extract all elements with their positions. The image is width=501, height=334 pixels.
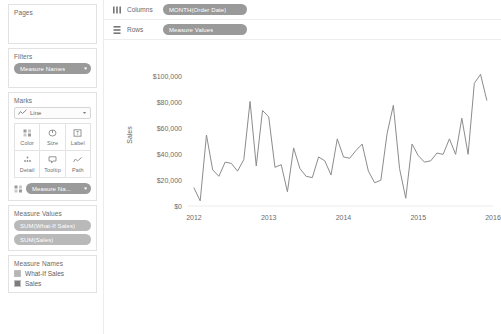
filters-card[interactable]: Filters Measure Names ▾ bbox=[8, 48, 97, 88]
rows-pill-label: Measure Values bbox=[169, 27, 213, 33]
chart-area[interactable]: $0$20,000$40,000$60,000$80,000$100,000Sa… bbox=[104, 40, 501, 334]
chevron-down-icon[interactable]: ▼ bbox=[82, 111, 87, 115]
columns-shelf[interactable]: Columns MONTH(Order Date) bbox=[104, 0, 501, 20]
x-axis-tick-label: 2016 bbox=[485, 214, 501, 221]
sort-icon[interactable]: ▾ bbox=[84, 66, 87, 72]
mark-type-label: Line bbox=[30, 110, 79, 116]
y-axis-tick-label: $0 bbox=[174, 203, 182, 210]
svg-text:T: T bbox=[76, 130, 79, 136]
pages-card[interactable]: Pages bbox=[8, 4, 97, 44]
marks-button-tooltip[interactable]: Tooltip bbox=[40, 151, 65, 178]
tooltip-icon bbox=[48, 156, 57, 165]
x-axis-tick-label: 2014 bbox=[336, 214, 352, 221]
marks-encoding-row: Measure Na... ▾ bbox=[14, 183, 91, 194]
measure-values-card: Measure Values SUM(What-If Sales) SUM(Sa… bbox=[8, 205, 97, 251]
marks-button-color[interactable]: Color bbox=[15, 124, 40, 151]
legend-swatch-icon bbox=[14, 270, 21, 277]
legend-item-what-if-sales-label: What-If Sales bbox=[25, 270, 64, 277]
legend-title: Measure Names bbox=[14, 260, 91, 267]
y-axis-tick-label: $60,000 bbox=[157, 125, 182, 132]
marks-button-path-label: Path bbox=[72, 167, 84, 173]
marks-buttons-grid: Color Size T Label bbox=[14, 123, 91, 178]
marks-button-detail[interactable]: Detail bbox=[15, 151, 40, 178]
columns-pill-label: MONTH(Order Date) bbox=[169, 7, 226, 13]
legend-item-sales[interactable]: Sales bbox=[14, 280, 91, 287]
x-axis-tick-label: 2013 bbox=[261, 214, 277, 221]
legend-item-sales-label: Sales bbox=[25, 280, 41, 287]
x-axis-tick-label: 2015 bbox=[410, 214, 426, 221]
measure-value-pill-sales[interactable]: SUM(Sales) bbox=[14, 234, 91, 245]
y-axis-title: Sales bbox=[126, 126, 133, 144]
marks-encoding-pill-label: Measure Na... bbox=[32, 186, 71, 192]
rows-shelf-label: Rows bbox=[127, 26, 157, 33]
rows-icon bbox=[112, 26, 121, 34]
size-icon bbox=[48, 129, 57, 138]
measure-value-pill-sales-label: SUM(Sales) bbox=[20, 237, 53, 243]
filters-title: Filters bbox=[14, 53, 91, 60]
label-icon: T bbox=[73, 129, 82, 138]
marks-button-label[interactable]: T Label bbox=[66, 124, 91, 151]
marks-button-size-label: Size bbox=[47, 140, 58, 146]
sort-icon[interactable]: ▾ bbox=[84, 186, 87, 192]
marks-button-detail-label: Detail bbox=[20, 167, 35, 173]
marks-button-tooltip-label: Tooltip bbox=[44, 167, 61, 173]
color-palette-icon bbox=[14, 185, 23, 193]
line-chart-icon bbox=[18, 109, 27, 117]
columns-shelf-label: Columns bbox=[127, 6, 157, 13]
marks-button-color-label: Color bbox=[20, 140, 34, 146]
worksheet-main: Columns MONTH(Order Date) Rows Measure V… bbox=[103, 0, 501, 334]
x-axis-tick-label: 2012 bbox=[186, 214, 202, 221]
detail-icon bbox=[23, 156, 32, 165]
columns-icon bbox=[112, 6, 121, 14]
measure-values-title: Measure Values bbox=[14, 210, 91, 217]
y-axis-tick-label: $40,000 bbox=[157, 151, 182, 158]
rows-pill-measure-values[interactable]: Measure Values bbox=[163, 24, 247, 35]
left-sidebar: Pages Filters Measure Names ▾ Marks Line… bbox=[0, 0, 103, 334]
measure-value-pill-what-if-sales[interactable]: SUM(What-If Sales) bbox=[14, 220, 91, 231]
pages-title: Pages bbox=[14, 9, 91, 16]
filter-pill-label: Measure Names bbox=[20, 66, 65, 72]
columns-pill-month-order-date[interactable]: MONTH(Order Date) bbox=[163, 4, 247, 15]
marks-title: Marks bbox=[14, 97, 91, 104]
measure-value-pill-what-if-sales-label: SUM(What-If Sales) bbox=[20, 223, 75, 229]
mark-type-dropdown[interactable]: Line ▼ bbox=[14, 107, 91, 119]
line-chart[interactable]: $0$20,000$40,000$60,000$80,000$100,000Sa… bbox=[104, 40, 501, 334]
filter-pill-measure-names[interactable]: Measure Names ▾ bbox=[14, 63, 91, 74]
tableau-worksheet: Pages Filters Measure Names ▾ Marks Line… bbox=[0, 0, 501, 334]
rows-shelf[interactable]: Rows Measure Values bbox=[104, 20, 501, 40]
marks-card: Marks Line ▼ bbox=[8, 92, 97, 201]
marks-button-label-label: Label bbox=[71, 140, 85, 146]
color-palette-icon bbox=[23, 129, 32, 138]
y-axis-tick-label: $80,000 bbox=[157, 99, 182, 106]
y-axis-tick-label: $100,000 bbox=[153, 73, 182, 80]
y-axis-tick-label: $20,000 bbox=[157, 177, 182, 184]
marks-button-size[interactable]: Size bbox=[40, 124, 65, 151]
legend-item-what-if-sales[interactable]: What-If Sales bbox=[14, 270, 91, 277]
path-icon bbox=[73, 156, 82, 165]
chart-line-sales[interactable] bbox=[194, 74, 487, 201]
marks-button-path[interactable]: Path bbox=[66, 151, 91, 178]
legend-card: Measure Names What-If Sales Sales bbox=[8, 255, 97, 293]
marks-encoding-pill-measure-names[interactable]: Measure Na... ▾ bbox=[26, 183, 91, 194]
legend-swatch-icon bbox=[14, 280, 21, 287]
